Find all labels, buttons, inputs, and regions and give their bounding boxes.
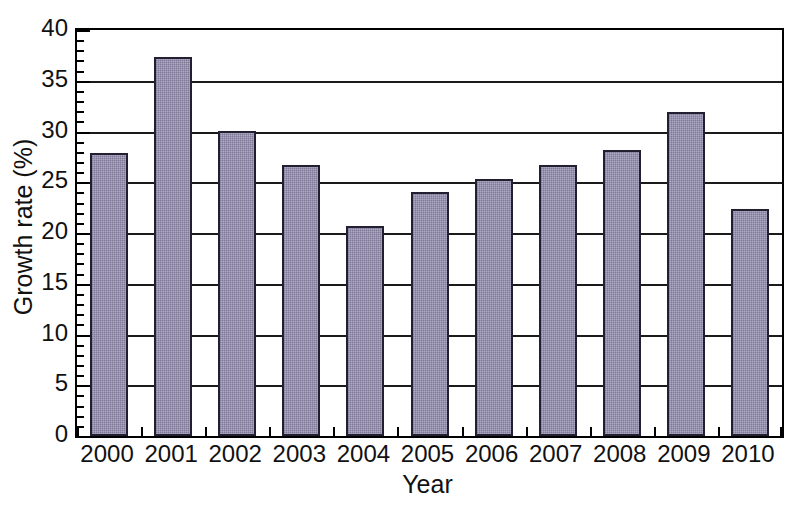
y-axis-major-tick <box>77 30 90 32</box>
bar <box>218 131 256 437</box>
bar <box>154 57 192 436</box>
y-axis-minor-tick <box>77 40 84 42</box>
x-axis-tick-label: 2003 <box>273 440 326 468</box>
x-axis-tick-label: 2001 <box>144 440 197 468</box>
y-axis-minor-tick <box>77 213 84 215</box>
y-axis-minor-tick <box>77 162 84 164</box>
bar <box>731 209 769 436</box>
y-axis-tick-label: 35 <box>28 65 68 93</box>
y-axis-tick-label: 20 <box>28 217 68 245</box>
x-axis-tick-label: 2006 <box>465 440 518 468</box>
y-axis-major-tick <box>77 385 90 387</box>
y-axis-minor-tick <box>77 223 84 225</box>
y-axis-minor-tick <box>77 243 84 245</box>
plot-inner <box>77 30 782 436</box>
y-axis-minor-tick <box>77 91 84 93</box>
y-axis-minor-tick <box>77 304 84 306</box>
x-axis-tick-labels: 2000200120022003200420052006200720082009… <box>75 440 780 472</box>
y-axis-tick-label: 30 <box>28 116 68 144</box>
y-axis-minor-tick <box>77 365 84 367</box>
x-axis-tick <box>718 427 720 436</box>
y-axis-minor-tick <box>77 355 84 357</box>
y-axis-major-tick <box>77 182 90 184</box>
x-axis-tick <box>590 427 592 436</box>
x-axis-tick <box>462 427 464 436</box>
x-axis-tick-label: 2005 <box>401 440 454 468</box>
y-axis-minor-tick <box>77 111 84 113</box>
y-axis-minor-tick <box>77 121 84 123</box>
y-axis-minor-tick <box>77 294 84 296</box>
y-axis-minor-tick <box>77 253 84 255</box>
bar <box>539 165 577 436</box>
y-axis-minor-tick <box>77 152 84 154</box>
x-axis-tick-label: 2009 <box>657 440 710 468</box>
y-axis-major-tick <box>77 233 90 235</box>
y-axis-minor-tick <box>77 203 84 205</box>
x-axis-tick-label: 2008 <box>593 440 646 468</box>
x-axis-tick <box>397 427 399 436</box>
y-axis-tick-label: 10 <box>28 319 68 347</box>
y-axis-major-tick <box>77 81 90 83</box>
x-axis-tick <box>333 427 335 436</box>
y-axis-minor-tick <box>77 192 84 194</box>
x-axis-tick-label: 2000 <box>80 440 133 468</box>
y-axis-tick-label: 25 <box>28 166 68 194</box>
y-axis-minor-tick <box>77 324 84 326</box>
x-axis-title: Year <box>75 470 780 499</box>
bar <box>475 179 513 436</box>
y-axis-minor-tick <box>77 60 84 62</box>
bar <box>603 150 641 436</box>
x-axis-tick-label: 2004 <box>337 440 390 468</box>
x-axis-tick-label: 2002 <box>209 440 262 468</box>
y-axis-tick-label: 15 <box>28 268 68 296</box>
y-axis-minor-tick <box>77 395 84 397</box>
x-axis-tick <box>526 427 528 436</box>
y-axis-minor-tick <box>77 406 84 408</box>
y-axis-minor-tick <box>77 314 84 316</box>
x-axis-tick <box>654 427 656 436</box>
bar <box>411 192 449 436</box>
x-axis-tick-label: 2010 <box>721 440 774 468</box>
x-axis-tick <box>77 427 79 436</box>
bar <box>90 153 128 436</box>
y-axis-tick-label: 0 <box>28 420 68 448</box>
y-axis-minor-tick <box>77 50 84 52</box>
y-axis-major-tick <box>77 335 90 337</box>
y-axis-minor-tick <box>77 345 84 347</box>
y-axis-minor-tick <box>77 274 84 276</box>
bar <box>346 226 384 436</box>
chart-page: Growth rate (%) 0510152025303540 2000200… <box>0 0 797 508</box>
y-axis-tick-label: 5 <box>28 369 68 397</box>
y-axis-major-tick <box>77 436 90 438</box>
y-axis-minor-tick <box>77 416 84 418</box>
bar <box>282 165 320 436</box>
y-axis-minor-tick <box>77 101 84 103</box>
y-axis-major-tick <box>77 132 90 134</box>
plot-area <box>75 28 784 438</box>
y-axis-minor-tick <box>77 172 84 174</box>
y-axis-minor-tick <box>77 71 84 73</box>
x-axis-tick <box>780 427 782 436</box>
y-axis-tick-label: 40 <box>28 14 68 42</box>
y-axis-minor-tick <box>77 375 84 377</box>
x-axis-tick <box>269 427 271 436</box>
x-axis-tick <box>205 427 207 436</box>
bar <box>667 112 705 436</box>
y-axis-minor-tick <box>77 263 84 265</box>
y-axis-minor-tick <box>77 142 84 144</box>
y-axis-major-tick <box>77 284 90 286</box>
y-axis-tick-labels: 0510152025303540 <box>20 0 68 508</box>
x-axis-tick <box>141 427 143 436</box>
x-axis-tick-label: 2007 <box>529 440 582 468</box>
